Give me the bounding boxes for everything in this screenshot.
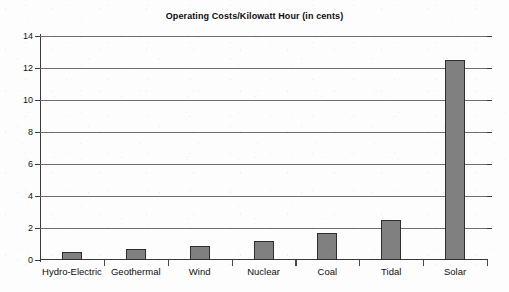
y-axis-tick-label: 12 [6, 64, 33, 73]
bar [254, 241, 274, 260]
bar [381, 220, 401, 260]
x-axis-category-label: Wind [189, 266, 211, 277]
y-axis-tick-label: 8 [6, 128, 33, 137]
gridline [40, 68, 487, 69]
y-axis-tick-label: 14 [6, 32, 33, 41]
x-axis-category-label: Solar [444, 266, 466, 277]
x-axis-category-label: Coal [318, 266, 338, 277]
y-axis-tick [35, 260, 40, 261]
x-axis-tick [295, 260, 296, 266]
y-axis-right-tick [487, 228, 492, 229]
x-axis-category-label: Geothermal [111, 266, 161, 277]
x-axis-tick [168, 260, 169, 266]
gridline [40, 196, 487, 197]
x-axis-category-label: Nuclear [247, 266, 280, 277]
bar-chart: Operating Costs/Kilowatt Hour (in cents)… [0, 0, 509, 292]
x-axis-end-tick [487, 260, 488, 266]
y-axis-tick [35, 228, 40, 229]
y-axis-right-tick [487, 196, 492, 197]
bar [126, 249, 146, 260]
plot-area [40, 36, 487, 260]
y-axis-tick-label: 6 [6, 160, 33, 169]
x-axis-tick [232, 260, 233, 266]
gridline [40, 228, 487, 229]
y-axis-tick [35, 36, 40, 37]
x-axis-tick [423, 260, 424, 266]
y-axis-right-tick [487, 164, 492, 165]
bar [317, 233, 337, 260]
gridline [40, 100, 487, 101]
y-axis-tick [35, 68, 40, 69]
gridline [40, 36, 487, 37]
x-axis-tick [104, 260, 105, 266]
x-axis-category-label: Tidal [381, 266, 401, 277]
y-axis-tick [35, 164, 40, 165]
y-axis-right-tick [487, 132, 492, 133]
y-axis-tick-label: 10 [6, 96, 33, 105]
gridline [40, 132, 487, 133]
y-axis-right-tick [487, 68, 492, 69]
y-axis-tick [35, 100, 40, 101]
y-axis-tick-label: 4 [6, 192, 33, 201]
y-axis-tick [35, 132, 40, 133]
bar [190, 246, 210, 260]
y-axis-right-tick [487, 36, 492, 37]
y-axis-tick [35, 196, 40, 197]
x-axis-category-label: Hydro-Electric [42, 266, 102, 277]
bar [445, 60, 465, 260]
chart-title: Operating Costs/Kilowatt Hour (in cents) [0, 11, 509, 21]
y-axis-tick-label: 0 [6, 256, 33, 265]
x-axis-tick [359, 260, 360, 266]
y-axis-tick-label: 2 [6, 224, 33, 233]
gridline [40, 164, 487, 165]
y-axis-right-tick [487, 100, 492, 101]
bar [62, 252, 82, 260]
